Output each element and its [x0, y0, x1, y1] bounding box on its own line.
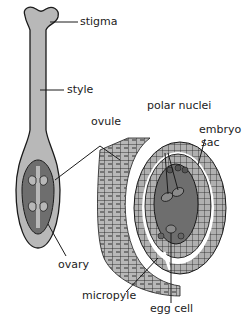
label-egg-cell: egg cell [150, 303, 193, 315]
label-micropyle: micropyle [82, 290, 136, 302]
pistil [16, 7, 60, 248]
label-embryo-sac-line2: sac [201, 137, 220, 149]
ovule-tissue [98, 138, 226, 296]
label-stigma: stigma [80, 16, 118, 28]
pistil-ovule-diagram: stigma style ovule ovary polar nuclei em… [0, 0, 250, 323]
label-polar-nuclei: polar nuclei [147, 100, 211, 112]
diagram-drawing [0, 0, 250, 323]
label-style: style [67, 84, 93, 96]
label-ovule: ovule [91, 116, 121, 128]
label-embryo-sac-line1: embryo [199, 124, 241, 136]
label-ovary: ovary [58, 259, 89, 271]
